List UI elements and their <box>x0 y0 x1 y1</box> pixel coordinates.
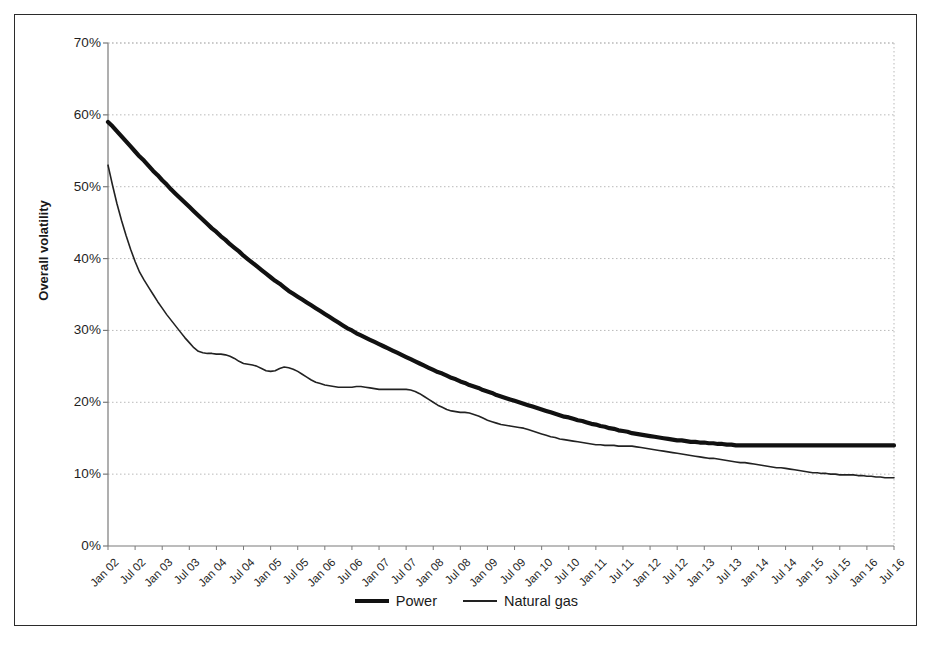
line-chart: 0%10%20%30%40%50%60%70% Overall volatili… <box>15 15 918 627</box>
legend-item-natural-gas: Natural gas <box>463 593 578 609</box>
legend-line-swatch-power <box>355 599 389 604</box>
x-axis-tick-labels: Jan 02Jul 02Jan 03Jul 03Jan 04Jul 04Jan … <box>15 15 918 627</box>
chart-legend: Power Natural gas <box>15 593 918 609</box>
chart-figure-frame: 0%10%20%30%40%50%60%70% Overall volatili… <box>14 14 917 626</box>
legend-line-swatch-natural-gas <box>463 600 497 602</box>
legend-label-natural-gas: Natural gas <box>504 593 578 609</box>
legend-label-power: Power <box>396 593 437 609</box>
legend-item-power: Power <box>355 593 437 609</box>
